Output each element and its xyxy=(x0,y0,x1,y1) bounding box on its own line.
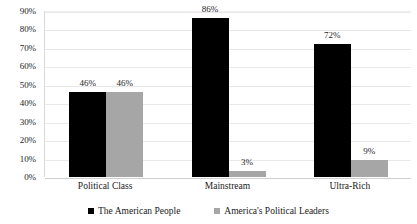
x-axis-category-label: Mainstream xyxy=(205,180,250,192)
gridline xyxy=(45,178,411,179)
bar[interactable] xyxy=(351,160,388,177)
y-axis-tick-label: 60% xyxy=(20,62,36,71)
bar[interactable] xyxy=(314,44,351,177)
x-axis-category-label: Political Class xyxy=(78,180,133,192)
bar[interactable] xyxy=(69,92,106,177)
legend-item[interactable]: America's Political Leaders xyxy=(214,205,329,217)
y-axis-tick-label: 20% xyxy=(20,136,36,145)
bar-chart: 0%10%20%30%40%50%60%70%80%90% 46%46%86%3… xyxy=(0,0,417,224)
bar-group: 46%46% xyxy=(69,12,143,177)
chart-legend: The American PeopleAmerica's Political L… xyxy=(0,203,417,219)
bar-value-label: 46% xyxy=(79,79,96,88)
y-axis-tick-label: 10% xyxy=(20,154,36,163)
y-axis-tick-label: 90% xyxy=(20,7,36,16)
y-axis-tick-label: 30% xyxy=(20,117,36,126)
bar-group: 72%9% xyxy=(314,12,388,177)
bar-value-label: 86% xyxy=(202,5,219,14)
bar[interactable] xyxy=(192,18,229,177)
legend-swatch-icon xyxy=(88,208,94,214)
legend-label: America's Political Leaders xyxy=(224,205,329,217)
legend-label: The American People xyxy=(98,205,180,217)
legend-item[interactable]: The American People xyxy=(88,205,180,217)
plot-area: 46%46%86%3%72%9% xyxy=(44,11,411,177)
bar[interactable] xyxy=(106,92,143,177)
x-axis: Political ClassMainstreamUltra-Rich xyxy=(44,180,411,196)
x-axis-category-label: Ultra-Rich xyxy=(330,180,371,192)
bar-value-label: 72% xyxy=(324,31,341,40)
bar-value-label: 9% xyxy=(363,147,375,156)
bar[interactable] xyxy=(229,171,266,177)
y-axis-tick-label: 70% xyxy=(20,43,36,52)
bar-value-label: 3% xyxy=(241,158,253,167)
bar-group: 86%3% xyxy=(192,12,266,177)
y-axis-tick-label: 40% xyxy=(20,99,36,108)
y-axis-tick-label: 50% xyxy=(20,80,36,89)
bar-value-label: 46% xyxy=(116,79,133,88)
y-axis-tick-label: 80% xyxy=(20,25,36,34)
y-axis-tick-label: 0% xyxy=(24,173,36,182)
legend-swatch-icon xyxy=(214,208,220,214)
y-axis: 0%10%20%30%40%50%60%70%80%90% xyxy=(0,11,40,177)
